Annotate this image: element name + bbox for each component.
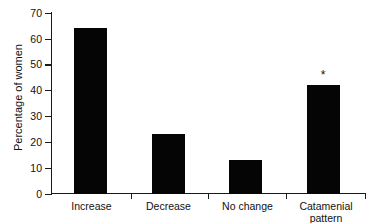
y-axis-line [51, 12, 52, 195]
y-axis-tick-label-50: 50 [16, 59, 42, 70]
y-axis-tick-label-30: 30 [16, 111, 42, 122]
y-axis-tick-20 [45, 142, 51, 143]
y-axis-tick-50 [45, 64, 51, 65]
bar-increase [74, 28, 107, 194]
x-axis-tick-1 [131, 194, 132, 199]
bar-decrease [152, 134, 185, 194]
x-axis-tick-2 [208, 194, 209, 199]
x-axis-label-no-change: No change [211, 200, 284, 212]
significance-asterisk: * [316, 69, 330, 81]
y-axis-tick-40 [45, 90, 51, 91]
x-axis-label-increase: Increase [56, 200, 127, 212]
y-axis-tick-label-70: 70 [16, 8, 42, 19]
y-axis-tick-60 [45, 39, 51, 40]
y-axis-tick-label-10: 10 [16, 163, 42, 174]
y-axis-tick-label-60: 60 [16, 34, 42, 45]
y-axis-tick-label-40: 40 [16, 85, 42, 96]
x-axis-label-decrease: Decrease [133, 200, 204, 212]
y-axis-tick-label-20: 20 [16, 137, 42, 148]
y-axis-tick-0 [45, 194, 51, 195]
x-axis-tick-3 [286, 194, 287, 199]
y-axis-tick-label-0: 0 [16, 189, 42, 200]
bar-no-change [229, 160, 262, 194]
x-axis-label-catamenial-pattern: Catamenial pattern [287, 200, 365, 223]
bar-catamenial-pattern [307, 85, 340, 194]
y-axis-tick-30 [45, 116, 51, 117]
y-axis-tick-70 [45, 13, 51, 14]
x-axis-tick-4 [365, 194, 366, 199]
y-axis-tick-10 [45, 168, 51, 169]
bar-chart-figure: Percentage of women 0 10 20 30 40 50 60 … [0, 0, 381, 223]
